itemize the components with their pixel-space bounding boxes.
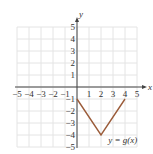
svg-text:−4: −4 <box>24 89 34 99</box>
svg-text:−4: −4 <box>65 130 75 140</box>
svg-text:−5: −5 <box>65 142 75 152</box>
svg-text:2: 2 <box>99 89 104 99</box>
axes <box>15 17 147 148</box>
svg-text:−1: −1 <box>65 94 75 104</box>
graph-of-g: −5−4−3−2−11234554321−1−2−3−4−5 x y y = g… <box>0 0 153 154</box>
svg-text:5: 5 <box>71 22 76 32</box>
x-axis-label: x <box>147 82 152 92</box>
svg-text:1: 1 <box>71 70 76 80</box>
svg-text:3: 3 <box>111 89 116 99</box>
y-axis-label: y <box>78 9 83 19</box>
svg-text:4: 4 <box>71 34 76 44</box>
svg-text:−2: −2 <box>48 89 58 99</box>
svg-text:2: 2 <box>71 58 76 68</box>
svg-text:−2: −2 <box>65 106 75 116</box>
svg-text:−3: −3 <box>65 118 75 128</box>
svg-text:−5: −5 <box>12 89 22 99</box>
svg-text:4: 4 <box>123 89 128 99</box>
curve-label: y = g(x) <box>107 135 137 145</box>
svg-text:3: 3 <box>71 46 76 56</box>
svg-text:5: 5 <box>135 89 140 99</box>
svg-text:−3: −3 <box>36 89 46 99</box>
svg-text:1: 1 <box>87 89 92 99</box>
